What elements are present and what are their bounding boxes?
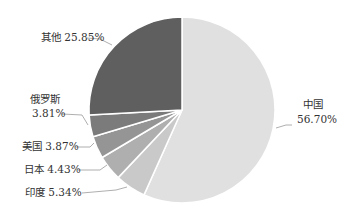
label-russia-name: 俄罗斯 xyxy=(30,93,61,105)
leader-line-india xyxy=(82,187,127,193)
leader-line-russia xyxy=(62,114,88,125)
label-japan: 日本 4.43% xyxy=(24,163,81,175)
leader-line-japan xyxy=(78,165,107,170)
label-russia-pct: 3.81% xyxy=(32,107,65,119)
pie-chart: 其他 25.85% 俄罗斯 3.81% 美国 3.87% 日本 4.43% 印度… xyxy=(0,0,349,216)
pie-slices xyxy=(89,17,275,203)
label-china-pct: 56.70% xyxy=(297,113,337,125)
label-china-name: 中国 xyxy=(303,98,323,110)
label-usa: 美国 3.87% xyxy=(22,140,79,152)
label-other: 其他 25.85% xyxy=(41,31,104,43)
label-india: 印度 5.34% xyxy=(25,186,82,198)
leader-line-china xyxy=(276,125,292,128)
